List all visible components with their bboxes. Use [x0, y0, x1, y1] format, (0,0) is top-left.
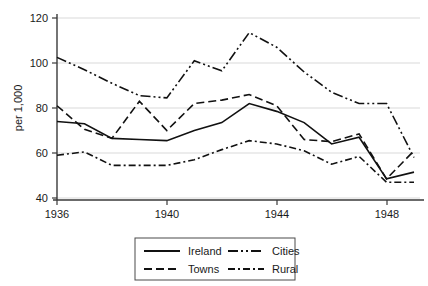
legend-label-cities: Cities	[272, 245, 300, 257]
line-chart: 120 100 80 60 40 1936 1940 1944 1948 per…	[0, 0, 428, 286]
chart-legend: Ireland Towns Cities Rural	[135, 238, 300, 280]
x-tick-label-1944: 1944	[265, 208, 289, 220]
y-tick-label-80: 80	[36, 102, 48, 114]
y-axis-label: per 1,000	[12, 85, 24, 131]
x-tick-label-1948: 1948	[375, 208, 399, 220]
y-tick-label-120: 120	[30, 12, 48, 24]
y-tick-label-40: 40	[36, 192, 48, 204]
x-tick-label-1940: 1940	[155, 208, 179, 220]
x-tick-label-1936: 1936	[45, 208, 69, 220]
legend-label-ireland: Ireland	[188, 245, 222, 257]
y-tick-label-100: 100	[30, 57, 48, 69]
y-tick-label-60: 60	[36, 147, 48, 159]
legend-label-towns: Towns	[188, 263, 220, 275]
legend-label-rural: Rural	[272, 263, 298, 275]
